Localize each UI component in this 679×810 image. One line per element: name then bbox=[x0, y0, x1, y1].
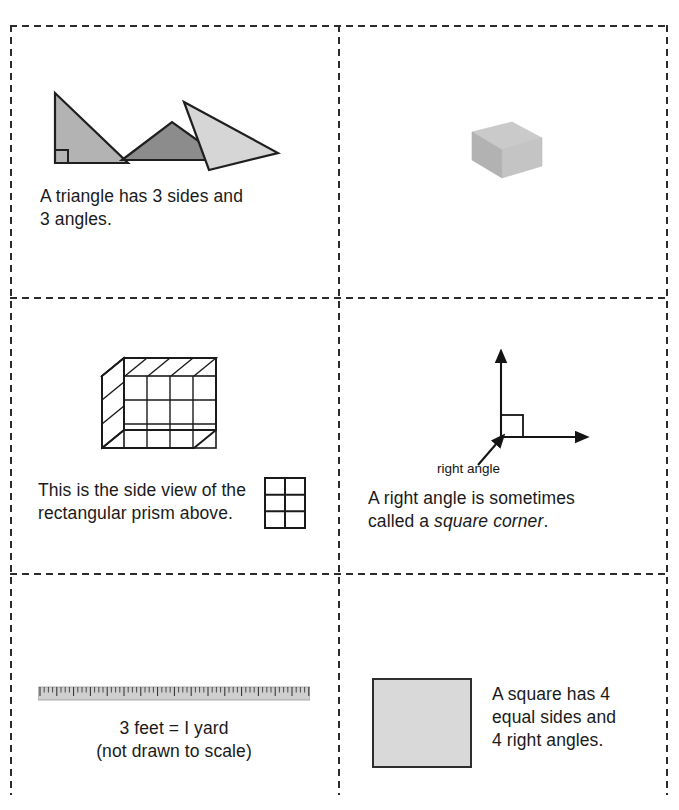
rectangular-prism-figure bbox=[450, 110, 560, 200]
side-view-grid-figure bbox=[262, 475, 308, 531]
caption-ruler: 3 feet = I yard(not drawn to scale) bbox=[10, 717, 338, 763]
caption-ruler-line-2: (not drawn to scale) bbox=[96, 741, 252, 761]
right-angle-square-marker bbox=[501, 415, 523, 437]
triangles-figure bbox=[32, 80, 322, 175]
right-angle-figure: right angle bbox=[425, 349, 595, 484]
flash-card-sheet: A triangle has 3 sides and 3 angles. bbox=[10, 25, 668, 795]
card-prism bbox=[340, 25, 668, 297]
right-angle-annotation-text: right angle bbox=[437, 461, 500, 476]
unit-cube-stack-figure bbox=[98, 354, 228, 459]
card-ruler: 3 feet = I yard(not drawn to scale) bbox=[10, 575, 338, 795]
ruler-figure bbox=[38, 685, 310, 703]
caption-cube: This is the side view of the rectangular… bbox=[38, 479, 268, 525]
triangle-right-angled bbox=[55, 93, 128, 163]
caption-ruler-line-1: 3 feet = I yard bbox=[120, 718, 229, 738]
caption-right-angle: A right angle is sometimes called a squa… bbox=[368, 487, 658, 533]
caption-square: A square has 4 equal sides and 4 right a… bbox=[492, 683, 662, 752]
card-cube: This is the side view of the rectangular… bbox=[10, 299, 338, 573]
card-triangles: A triangle has 3 sides and 3 angles. bbox=[10, 25, 338, 297]
caption-right-angle-italic: square corner bbox=[434, 511, 543, 531]
card-square: A square has 4 equal sides and 4 right a… bbox=[340, 575, 668, 795]
caption-triangles: A triangle has 3 sides and 3 angles. bbox=[40, 185, 320, 231]
shaded-square-figure bbox=[372, 678, 472, 768]
card-right-angle: right angle A right angle is sometimes c… bbox=[340, 299, 668, 573]
cube-left-face bbox=[102, 358, 124, 448]
caption-right-angle-suffix: . bbox=[543, 511, 548, 531]
